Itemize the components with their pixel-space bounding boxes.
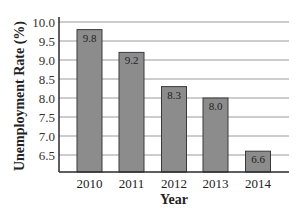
bar-value-label: 9.2 bbox=[125, 54, 139, 66]
y-tick-label: 6.5 bbox=[39, 148, 55, 163]
y-tick-label: 10.0 bbox=[32, 15, 55, 30]
y-tick-label: 9.5 bbox=[39, 34, 55, 49]
bar-value-label: 6.6 bbox=[251, 153, 265, 165]
y-axis-title: Unemployment Rate (%) bbox=[12, 21, 28, 171]
y-tick-label: 8.5 bbox=[39, 72, 55, 87]
bar-chart: 9.89.28.38.06.6 10.09.59.08.58.07.57.06.… bbox=[0, 0, 304, 218]
bars: 9.89.28.38.06.6 bbox=[77, 30, 271, 172]
x-tick-label: 2011 bbox=[119, 176, 145, 191]
bar-2010 bbox=[77, 30, 102, 172]
y-tick-label: 7.0 bbox=[39, 129, 55, 144]
x-tick-label: 2010 bbox=[77, 176, 103, 191]
y-tick-label: 7.5 bbox=[39, 110, 55, 125]
y-tick-label: 8.0 bbox=[39, 91, 55, 106]
x-tick-label: 2014 bbox=[245, 176, 272, 191]
x-tick-label: 2013 bbox=[203, 176, 229, 191]
x-tick-label: 2012 bbox=[161, 176, 187, 191]
x-axis-title: Year bbox=[160, 192, 188, 207]
x-axis-ticks: 20102011201220132014 bbox=[77, 176, 272, 191]
bar-2011 bbox=[119, 52, 144, 172]
bar-value-label: 8.3 bbox=[167, 89, 181, 101]
bar-value-label: 9.8 bbox=[83, 32, 97, 44]
y-tick-label: 9.0 bbox=[39, 53, 55, 68]
bar-value-label: 8.0 bbox=[209, 100, 223, 112]
y-axis-ticks: 10.09.59.08.58.07.57.06.5 bbox=[32, 15, 55, 163]
